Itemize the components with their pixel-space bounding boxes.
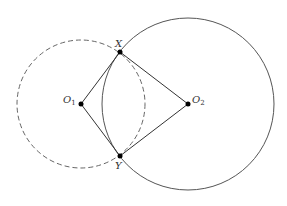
segment-o1-x [81,52,120,104]
label-o1: O1 [63,94,76,107]
segment-o2-x [120,52,188,104]
point-y [118,154,123,159]
intersecting-circles-diagram: X Y O1 O2 [0,0,287,206]
point-o1 [79,102,84,107]
point-o2 [186,102,191,107]
label-y: Y [115,160,123,171]
point-x [118,50,123,55]
label-x: X [114,38,123,49]
segment-o2-y [120,104,188,156]
segment-o1-y [81,104,120,156]
label-o2: O2 [192,94,205,107]
